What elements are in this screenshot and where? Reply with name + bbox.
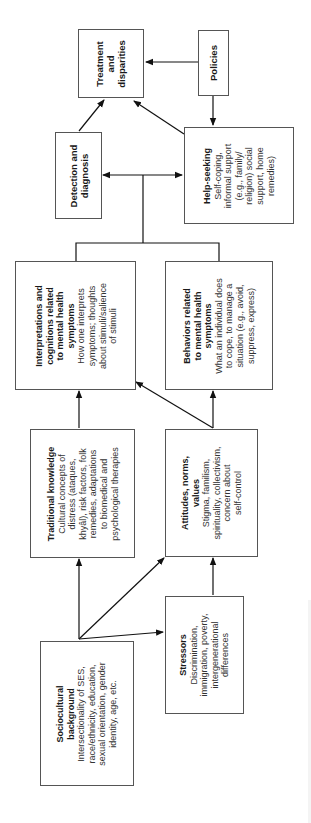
node-desc-line: self-control <box>233 429 244 557</box>
node-title: Behaviors related <box>182 261 193 390</box>
node-desc-line: symptoms; thoughts <box>86 261 97 390</box>
node-desc-line: concern about <box>222 429 233 557</box>
node-desc-line: immigration, poverty, <box>199 596 210 714</box>
node-desc-line: khyâl), risk factors, folk <box>77 429 88 558</box>
node-title: Sociocultural <box>55 641 66 786</box>
node-title: and <box>105 31 116 97</box>
node-title: values <box>190 429 201 557</box>
node-title: Interpretations and <box>33 261 44 390</box>
node-title: Policies <box>208 30 219 96</box>
node-desc-line: support, home <box>255 127 266 224</box>
node-title: Traditional knowledge <box>45 429 56 558</box>
node-desc-line: spirituality, collectivism, <box>212 429 223 557</box>
node-title: Stressors <box>178 596 189 714</box>
node-title: background <box>66 641 77 786</box>
node-desc-line: about stimuli/salience <box>97 261 108 390</box>
node-desc-line: remedies, adaptations <box>88 429 99 558</box>
node-attitudes-norms-values: Attitudes, norms, values Stigma, familis… <box>165 429 258 557</box>
node-title: to mental health <box>192 261 203 390</box>
node-desc-line: race/ethnicity, education, <box>87 641 98 786</box>
node-behaviors: Behaviors related to mental health sympt… <box>165 261 273 390</box>
arrow-help-to-treatment <box>134 101 184 134</box>
node-desc-line: to biomedical and <box>98 429 109 558</box>
node-desc-line: Cultural concepts of <box>56 429 67 558</box>
arrow-socio-to-stressors <box>79 632 163 639</box>
node-detection-diagnosis: Detection and diagnosis <box>55 132 102 219</box>
node-desc-line: suppress, express) <box>246 261 257 390</box>
node-title: to mental health <box>54 261 65 390</box>
node-desc-line: Intersectionality of SES, <box>76 641 87 786</box>
node-title: cognitions related <box>44 261 55 390</box>
node-treatment-disparities: Treatment and disparities <box>78 29 144 98</box>
node-desc-line: to cope, to manage a <box>224 261 235 390</box>
node-title: disparities <box>117 31 128 97</box>
arrow-detection-to-treatment <box>79 100 104 131</box>
node-policies: Policies <box>198 30 229 96</box>
node-desc-line: identity, age, etc. <box>108 641 119 786</box>
node-sociocultural-background: Sociocultural background Intersectionali… <box>40 641 134 786</box>
node-desc-line: How one interprets <box>76 261 87 390</box>
node-interpretations-cognitions: Interpretations and cognitions related t… <box>15 261 136 390</box>
node-desc-line: Stigma, familism, <box>201 429 212 557</box>
node-desc-line: What an individual does <box>214 261 225 390</box>
node-desc-line: (e.g., family/ <box>234 127 245 224</box>
node-desc-line: religion) social <box>244 127 255 224</box>
node-title: Help-seeking <box>202 127 213 224</box>
node-desc-line: distress (ataques, <box>67 429 78 558</box>
node-help-seeking: Help-seeking Self-coping, informal suppo… <box>184 127 294 224</box>
bracket-join <box>76 243 219 261</box>
page-edge-shadow <box>308 600 311 823</box>
arrow-socio-to-attitudes <box>79 558 164 639</box>
node-stressors: Stressors Discrimination, immigration, p… <box>165 596 244 714</box>
node-desc-line: psychological therapies <box>109 429 120 558</box>
node-title: Detection and <box>67 132 78 219</box>
node-title: diagnosis <box>79 132 90 219</box>
node-traditional-knowledge: Traditional knowledge Cultural concepts … <box>30 429 135 558</box>
node-desc-line: Self-coping, <box>212 127 223 224</box>
node-title: symptoms <box>203 261 214 390</box>
node-title: symptoms <box>65 261 76 390</box>
node-desc-line: Discrimination, <box>189 596 200 714</box>
node-title: Treatment <box>94 31 105 97</box>
node-desc-line: differences <box>220 596 231 714</box>
node-desc-line: of stimuli <box>107 261 118 390</box>
node-desc-line: situation (e.g., avoid, <box>235 261 246 390</box>
node-desc-line: intergenerational <box>210 596 221 714</box>
node-desc-line: informal support <box>223 127 234 224</box>
node-desc-line: remedies) <box>266 127 277 224</box>
node-desc-line: sexual orientation, gender <box>98 641 109 786</box>
node-title: Attitudes, norms, <box>180 429 191 557</box>
